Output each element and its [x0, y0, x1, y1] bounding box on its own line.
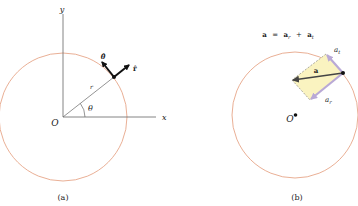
- panel-a: y x O r θ r̂ θ̂ (a): [0, 5, 167, 202]
- acceleration-label: a: [314, 66, 319, 75]
- unit-theta-arrow: [102, 62, 114, 77]
- unit-r-arrow: [114, 65, 129, 77]
- acceleration-equation: a = ar + at: [262, 30, 315, 41]
- unit-r-label: r̂: [133, 64, 137, 73]
- figure-canvas: y x O r θ r̂ θ̂ (a) a at ar O a = ar + a…: [0, 0, 358, 206]
- angle-label: θ: [88, 104, 93, 113]
- y-axis-label: y: [59, 5, 65, 14]
- panel-b: a at ar O a = ar + at (b): [232, 30, 358, 202]
- caption-b: (b): [291, 193, 302, 202]
- center-point-b: [294, 113, 298, 117]
- x-axis-label: x: [162, 113, 167, 122]
- radius-label: r: [90, 83, 94, 90]
- angle-arc: [80, 103, 85, 117]
- caption-a: (a): [57, 193, 68, 202]
- radial-label: ar: [325, 96, 332, 105]
- unit-theta-label: θ̂: [101, 52, 106, 61]
- origin-label-b: O: [286, 114, 294, 124]
- origin-label-a: O: [51, 118, 59, 128]
- tangential-label: at: [334, 46, 341, 55]
- particle-point-b: [341, 71, 345, 75]
